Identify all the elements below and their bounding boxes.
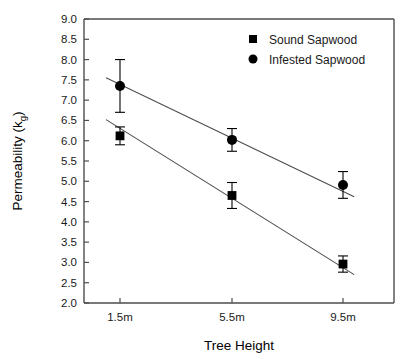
y-tick-label: 3.0: [61, 256, 77, 268]
y-tick-label: 6.5: [61, 114, 77, 126]
y-tick-label: 8.0: [61, 54, 77, 66]
y-tick-label: 4.0: [61, 216, 77, 228]
y-tick-label: 7.5: [61, 74, 77, 86]
data-point-square: [339, 260, 348, 269]
y-tick-label: 5.5: [61, 155, 77, 167]
permeability-scatter-chart: 9.08.58.07.57.06.56.05.55.04.54.03.53.02…: [0, 0, 415, 359]
y-tick-label: 7.0: [61, 94, 77, 106]
regression-lines: [106, 78, 354, 275]
y-axis-title-close: ): [10, 111, 25, 116]
x-axis: 1.5m5.5m9.5m: [107, 298, 356, 323]
svg-text:Permeability (kg): Permeability (kg): [10, 111, 28, 210]
y-tick-label: 6.0: [61, 135, 77, 147]
data-series-group: [115, 60, 348, 273]
x-tick-label: 9.5m: [330, 311, 356, 323]
data-point-circle: [227, 135, 237, 145]
data-point-circle: [338, 180, 348, 190]
y-axis-title-base: Permeability (k: [10, 121, 25, 211]
legend-marker-circle: [249, 55, 258, 64]
y-tick-label: 4.5: [61, 196, 77, 208]
y-tick-label: 9.0: [61, 13, 77, 25]
y-axis-title: Permeability (kg): [10, 111, 28, 210]
x-tick-label: 1.5m: [107, 311, 133, 323]
legend-label: Sound Sapwood: [269, 33, 357, 47]
y-tick-label: 5.0: [61, 175, 77, 187]
y-axis: 9.08.58.07.57.06.56.05.55.04.54.03.53.02…: [61, 13, 89, 309]
legend-marker-square: [249, 35, 257, 43]
y-tick-label: 2.5: [61, 277, 77, 289]
data-point-circle: [115, 81, 125, 91]
x-axis-title: Tree Height: [204, 338, 274, 353]
x-tick-label: 5.5m: [219, 311, 245, 323]
y-tick-label: 3.5: [61, 236, 77, 248]
y-tick-label: 8.5: [61, 33, 77, 45]
y-tick-label: 2.0: [61, 297, 77, 309]
data-point-square: [116, 131, 125, 140]
chart-legend: Sound SapwoodInfested Sapwood: [249, 33, 366, 67]
data-point-square: [228, 191, 237, 200]
legend-label: Infested Sapwood: [269, 53, 365, 67]
chart-figure: 9.08.58.07.57.06.56.05.55.04.54.03.53.02…: [0, 0, 415, 359]
